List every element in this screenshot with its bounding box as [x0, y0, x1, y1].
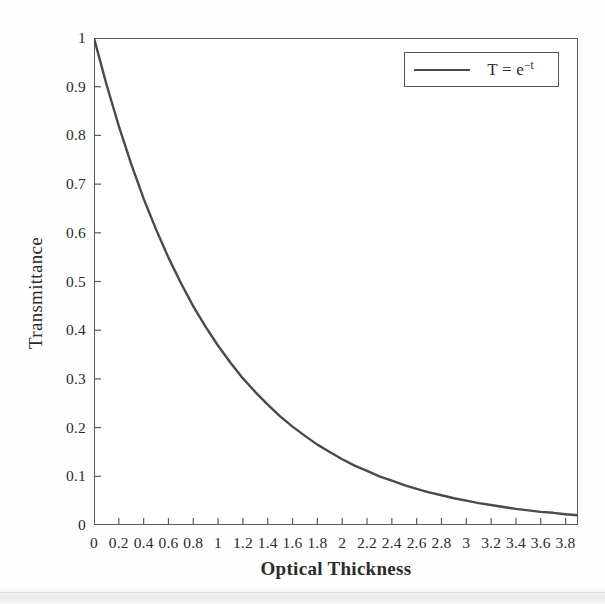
figure-canvas: 00.10.20.30.40.50.60.70.80.91 00.20.40.6…: [0, 0, 605, 604]
data-curve-transmittance: [94, 38, 578, 515]
y-tick-label: 0.2: [16, 420, 86, 436]
scan-artifact-hairline: [0, 592, 605, 593]
legend-line-swatch: [414, 69, 470, 71]
y-tick-label: 0.8: [16, 127, 86, 143]
x-axis-ticks: [94, 518, 566, 525]
y-axis-ticks: [94, 38, 101, 525]
y-tick-label: 0.1: [16, 468, 86, 484]
y-tick-label: 1: [16, 30, 86, 46]
legend-label-exponent: −t: [524, 59, 534, 71]
y-tick-label: 0.9: [16, 79, 86, 95]
plot-area: [94, 38, 578, 525]
x-tick-label: 3.8: [536, 535, 596, 551]
x-axis-label: Optical Thickness: [94, 558, 578, 580]
legend: T = e−t: [404, 52, 559, 87]
scan-artifact-band: [0, 586, 605, 604]
legend-entry-label: T = e−t: [470, 59, 549, 80]
y-axis-label: Transmittance: [25, 173, 47, 413]
legend-label-base: T = e: [487, 60, 524, 79]
y-tick-label: 0: [16, 517, 86, 533]
